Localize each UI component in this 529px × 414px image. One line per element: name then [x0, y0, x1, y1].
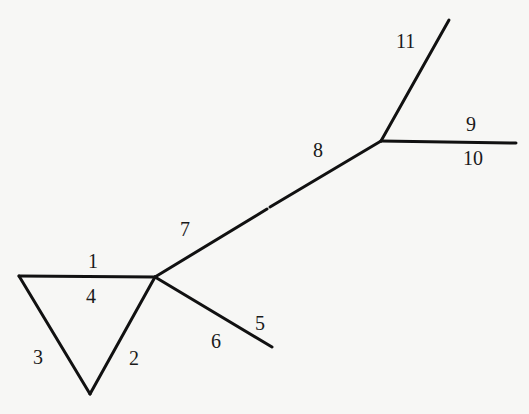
- edge-e-right: [90, 277, 155, 394]
- edge-label: 8: [313, 139, 323, 161]
- edge-e-long-a: [155, 209, 267, 277]
- edge-e-long-b: [270, 141, 381, 207]
- edge-label: 10: [463, 147, 483, 169]
- edge-e-left: [19, 276, 90, 394]
- edge-label: 9: [466, 113, 476, 135]
- edge-label: 5: [255, 312, 265, 334]
- edge-e-flat: [381, 141, 516, 143]
- edges-group: [19, 20, 516, 394]
- edge-label: 1: [88, 250, 98, 272]
- graph-diagram: 1432567891011: [0, 0, 529, 414]
- edge-label: 7: [180, 218, 190, 240]
- edge-label: 6: [211, 330, 221, 352]
- edge-e-top: [19, 276, 155, 277]
- edge-label: 3: [33, 346, 43, 368]
- edge-label: 2: [129, 347, 139, 369]
- edge-label: 4: [86, 285, 96, 307]
- edge-label: 11: [396, 30, 415, 52]
